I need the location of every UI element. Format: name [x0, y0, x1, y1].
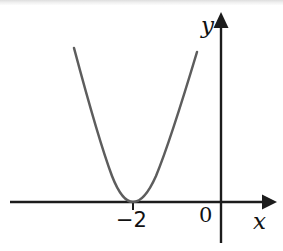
graph-figure: y x 0 −2 — [0, 0, 283, 251]
origin-label: 0 — [199, 205, 212, 226]
x-axis-label: x — [253, 210, 266, 233]
y-axis-arrow-icon — [214, 12, 229, 28]
y-axis-label: y — [201, 14, 214, 37]
parabola-curve — [74, 48, 197, 202]
x-tick-label-minus-2: −2 — [116, 210, 147, 231]
